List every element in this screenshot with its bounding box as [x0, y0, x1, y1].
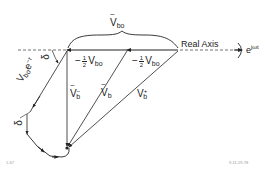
delta-wedge	[20, 112, 30, 118]
vb-label: Vb	[101, 88, 112, 99]
fraction: 12	[82, 55, 87, 68]
fraction: 12	[139, 55, 144, 68]
vbo-brace	[68, 31, 178, 48]
phasor-diagram: Vbo Real Axis ejωt −12Vbo −12Vbo δ Vboe−…	[0, 0, 265, 172]
rotation-label: ejωt	[246, 44, 259, 55]
delta-top-arc	[52, 50, 58, 63]
delta-top-label: δ	[41, 54, 51, 60]
vb-plus-label: V+b	[137, 88, 147, 100]
vbo-tilde-label: Vbo	[110, 18, 124, 29]
half-vbo-left-label: −12Vbo	[75, 55, 103, 68]
convergence-point	[65, 146, 68, 149]
delta-bottom-label: δ	[14, 120, 24, 126]
half-vbo-right-label: −12Vbo	[132, 55, 160, 68]
path-curve	[27, 134, 69, 157]
diagram-lines	[0, 0, 265, 172]
real-axis-label: Real Axis	[181, 40, 219, 49]
footnote-left: 1-67	[6, 161, 14, 165]
footnote-right: 9-11-29-78	[229, 161, 248, 165]
vb-minus-label: V−b	[70, 88, 80, 100]
